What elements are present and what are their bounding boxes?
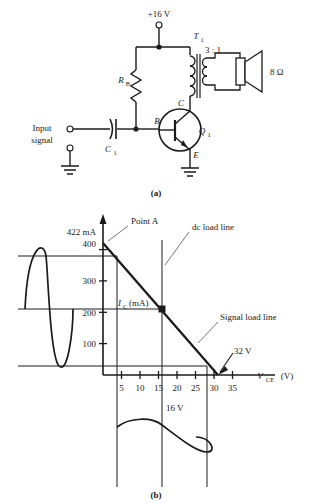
- emitter-ground-icon: [181, 168, 199, 176]
- emitter-terminal-label: E: [192, 150, 199, 160]
- x-axis-label-sub: CE: [266, 376, 274, 383]
- input-signal-label-line1: Input: [33, 123, 52, 133]
- y-axis-label-unit: (mA): [129, 298, 149, 308]
- supply-terminal-icon: [156, 22, 162, 28]
- junction-dot-icon: [156, 44, 161, 49]
- quiescent-voltage-label: 16 V: [166, 403, 184, 413]
- x-tick-label-30: 30: [210, 383, 220, 393]
- base-terminal-label: B: [154, 116, 160, 126]
- dc-load-line-label: dc load line: [192, 222, 234, 232]
- supply-label: +16 V: [148, 9, 171, 19]
- capacitor-label: C: [105, 144, 112, 154]
- input-terminal-bottom-icon[interactable]: [67, 145, 73, 151]
- y-axis-arrow-icon: [100, 214, 107, 224]
- collector-voltage-waveform: [117, 419, 212, 452]
- y-axis-label-main: I: [117, 298, 122, 308]
- signal-load-line-label: Signal load line: [220, 312, 277, 322]
- caption-a: (a): [151, 188, 162, 198]
- y-axis-label-sub: C: [123, 303, 127, 310]
- x-tick-label-20: 20: [173, 383, 183, 393]
- x-intercept-label: 32 V: [234, 346, 252, 356]
- input-ground-icon: [61, 166, 79, 174]
- q-point-marker: [159, 306, 166, 313]
- resistor-zigzag-icon: [131, 70, 141, 102]
- figure-svg: +16 V R B T 1 3 : 1: [0, 0, 312, 503]
- transistor-label-sub: 1: [207, 131, 210, 138]
- y-tick-label-200: 200: [83, 308, 97, 318]
- y-tick-label-100: 100: [83, 339, 97, 349]
- resistor-label: R: [117, 75, 124, 85]
- x-axis-label-main: V: [257, 371, 264, 381]
- input-signal-label-line2: signal: [31, 135, 53, 145]
- speaker-bottom-wire: [207, 85, 240, 90]
- x-tick-label-10: 10: [136, 383, 146, 393]
- transformer-label-sub: 1: [200, 36, 203, 43]
- caption-b: (b): [151, 490, 162, 500]
- transformer-secondary-coil-icon: [203, 58, 208, 85]
- transistor-label: Q: [199, 126, 206, 136]
- capacitor-label-sub: 1: [113, 149, 116, 156]
- transformer-label: T: [193, 31, 199, 41]
- dc-load-line-leader: [165, 232, 189, 265]
- point-a-leader-line: [108, 226, 128, 241]
- collector-current-waveform: [25, 248, 73, 367]
- y-tick-label-400: 400: [83, 239, 97, 249]
- y-tick-label-300: 300: [83, 276, 97, 286]
- signal-load-line-leader: [198, 322, 218, 343]
- x-tick-label-35: 35: [228, 383, 238, 393]
- transformer-primary-coil-icon: [190, 56, 195, 96]
- figure-container: +16 V R B T 1 3 : 1: [0, 0, 312, 503]
- speaker-impedance-label: 8 Ω: [270, 67, 284, 77]
- resistor-label-sub: B: [126, 80, 131, 87]
- x-tick-label-15: 15: [154, 383, 164, 393]
- y-intercept-annotation: 422 mA: [67, 227, 97, 237]
- circuit-diagram: +16 V R B T 1 3 : 1: [31, 9, 284, 198]
- x-tick-label-25: 25: [191, 383, 201, 393]
- x-tick-label-5: 5: [119, 383, 124, 393]
- point-a-label: Point A: [131, 216, 159, 226]
- x-axis-label-unit: (V): [281, 371, 294, 381]
- load-line-graph: 100 200 300 400 422 mA 5 10 15 20 25 30 …: [18, 214, 293, 500]
- input-terminal-top-icon[interactable]: [67, 126, 73, 132]
- capacitor-icon: [110, 119, 116, 139]
- collector-terminal-label: C: [178, 98, 185, 108]
